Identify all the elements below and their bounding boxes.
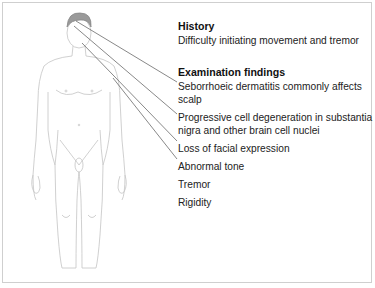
history-heading: History: [178, 20, 215, 33]
history-text: Difficulty initiating movement and tremo…: [178, 34, 359, 47]
finding-substantia-nigra-line2: nigra and other brain cell nuclei: [178, 124, 320, 137]
leader-line-substantia-nigra: [74, 26, 177, 114]
finding-facial-expression: Loss of facial expression: [178, 142, 290, 155]
finding-scalp-line1: Seborrhoeic dermatitis commonly affects: [178, 80, 362, 93]
leader-line-facial-expression: [82, 43, 177, 141]
leader-lines: [74, 21, 177, 159]
leader-line-scalp: [76, 21, 177, 82]
finding-substantia-nigra-line1: Progressive cell degeneration in substan…: [178, 111, 372, 124]
finding-rigidity: Rigidity: [178, 196, 211, 209]
examination-heading: Examination findings: [178, 66, 285, 79]
body-outline: [32, 13, 127, 268]
finding-scalp-line2: scalp: [178, 93, 202, 106]
finding-abnormal-tone: Abnormal tone: [178, 160, 244, 173]
finding-tremor: Tremor: [178, 178, 210, 191]
